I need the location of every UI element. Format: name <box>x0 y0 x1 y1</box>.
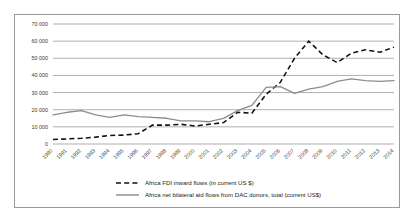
x-axis-tick-label: 1993 <box>84 147 97 160</box>
x-axis-tick-label: 1991 <box>55 147 68 160</box>
legend-label: Africa FDI inward flows (in current US $… <box>145 179 254 186</box>
y-axis-tick-label: 20 000 <box>32 107 49 113</box>
x-axis-tick-label: 2001 <box>197 147 210 160</box>
y-axis-tick-label: 70 000 <box>32 21 49 27</box>
x-axis-tick-label: 2000 <box>183 147 196 160</box>
x-axis-tick-label: 1995 <box>112 147 125 160</box>
x-axis-tick-label: 2004 <box>240 147 253 160</box>
y-axis-tick-label: 60 000 <box>32 38 49 44</box>
plot-area: 010 00020 00030 00040 00050 00060 00070 … <box>15 15 401 209</box>
x-axis-tick-label: 2007 <box>283 147 296 160</box>
x-axis-tick-label: 2010 <box>325 147 338 160</box>
x-axis-tick-label: 2005 <box>254 147 267 160</box>
x-axis-tick-label: 1996 <box>126 147 139 160</box>
legend-group: Africa FDI inward flows (in current US $… <box>116 179 321 198</box>
x-axis-tick-label: 1994 <box>98 147 111 160</box>
y-axis-tick-label: 50 000 <box>32 55 49 61</box>
y-axis-tick-label: 40 000 <box>32 72 49 78</box>
x-axis-tick-label: 1997 <box>140 147 153 160</box>
line-chart-svg: 010 00020 00030 00040 00050 00060 00070 … <box>15 15 401 209</box>
x-axis-tick-label: 1990 <box>41 147 54 160</box>
y-axis-tick-label: 30 000 <box>32 90 49 96</box>
data-series-group <box>53 41 394 139</box>
x-axis-tick-label: 1999 <box>169 147 182 160</box>
x-axis-tick-label: 2014 <box>382 147 395 160</box>
series-line-aid <box>53 79 394 122</box>
x-axis-tick-label: 2003 <box>226 147 239 160</box>
y-axis-ticks-group: 010 00020 00030 00040 00050 00060 00070 … <box>32 21 49 147</box>
chart-figure: 010 00020 00030 00040 00050 00060 00070 … <box>14 14 400 208</box>
x-axis-tick-label: 2012 <box>354 147 367 160</box>
legend-label: Africa net bilateral aid flows from DAC … <box>145 191 321 198</box>
series-line-fdi <box>53 41 394 139</box>
x-axis-tick-label: 2013 <box>368 147 381 160</box>
gridlines-group <box>53 24 394 144</box>
x-axis-tick-label: 2006 <box>268 147 281 160</box>
x-axis-tick-label: 2011 <box>340 147 352 159</box>
x-axis-ticks-group: 1990199119921993199419951996199719981999… <box>41 147 395 160</box>
x-axis-tick-label: 1992 <box>69 147 82 160</box>
x-axis-tick-label: 2009 <box>311 147 324 160</box>
x-axis-tick-label: 2008 <box>297 147 310 160</box>
y-axis-tick-label: 0 <box>45 141 48 147</box>
x-axis-tick-label: 2002 <box>211 147 224 160</box>
x-axis-tick-label: 1998 <box>155 147 168 160</box>
y-axis-tick-label: 10 000 <box>32 124 49 130</box>
